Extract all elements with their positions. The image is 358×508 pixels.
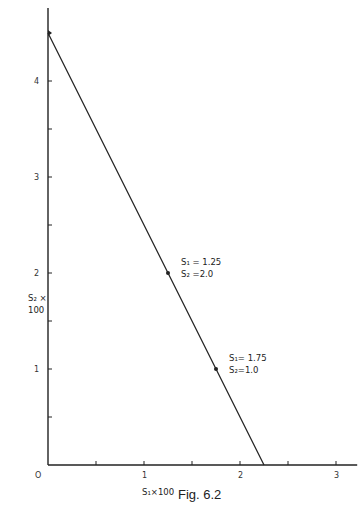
y-axis-label-line2: 100: [28, 305, 44, 315]
point-annotation-s1: S₁= 1.75: [229, 353, 267, 363]
point-annotation-s2: S₂ =2.0: [181, 269, 213, 279]
x-tick-label: 2: [238, 471, 243, 480]
point-annotation-s2: S₂=1.0: [229, 365, 258, 375]
y-axis-label-line1: S₂ ×: [28, 293, 47, 303]
series-line: [48, 33, 264, 465]
data-point: [166, 271, 170, 275]
origin-label: O: [35, 471, 41, 480]
axes: [48, 8, 357, 465]
data-point: [214, 367, 218, 371]
figure-caption: Fig. 6.2: [178, 487, 221, 502]
y-tick-label: 2: [34, 269, 39, 278]
y-tick-label: 3: [34, 173, 39, 182]
y-tick-label: 1: [34, 365, 39, 374]
intercept-marker: [48, 30, 52, 36]
data-points: S₁ = 1.25S₂ =2.0S₁= 1.75S₂=1.0: [48, 30, 267, 375]
chart: 1231234 S₁ = 1.25S₂ =2.0S₁= 1.75S₂=1.0 S…: [0, 0, 358, 508]
y-tick-label: 4: [34, 77, 39, 86]
x-tick-label: 3: [334, 471, 339, 480]
data-line: [48, 33, 264, 465]
point-annotation-s1: S₁ = 1.25: [181, 257, 221, 267]
x-tick-label: 1: [142, 471, 147, 480]
x-axis-label: S₁×100: [142, 487, 174, 497]
